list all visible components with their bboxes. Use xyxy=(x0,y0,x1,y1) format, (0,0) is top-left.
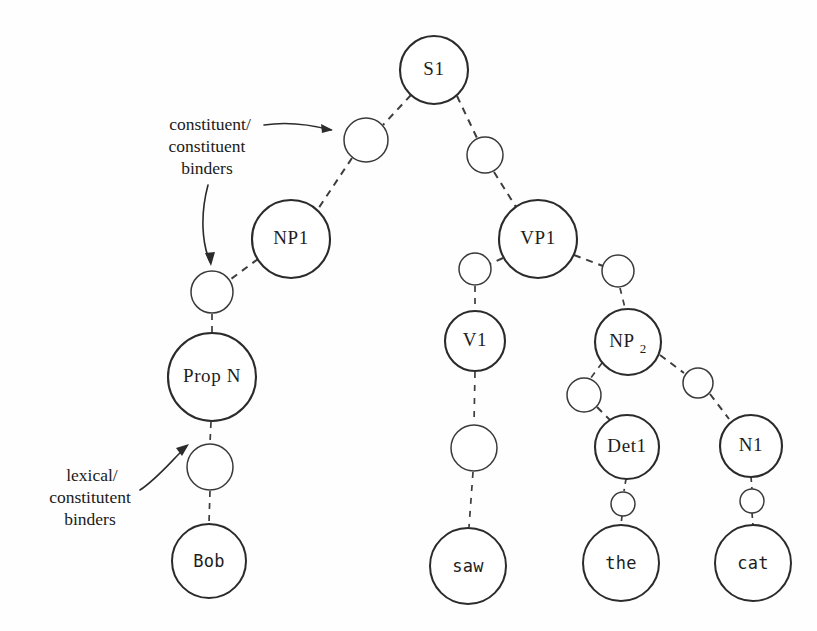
node-binder-propn-bob-circle[interactable] xyxy=(187,444,233,490)
node-propn[interactable]: Prop N xyxy=(168,333,256,421)
node-binder-np2-n1[interactable] xyxy=(683,368,713,398)
edge-s1-to-binder-left xyxy=(383,95,411,125)
edge-np1-to-binder xyxy=(231,259,258,279)
annotation-cc-arrow-lower xyxy=(203,185,210,262)
node-binder-np2-det1-circle[interactable] xyxy=(567,378,601,412)
node-bob[interactable]: Bob xyxy=(172,524,246,598)
node-binder-vp1-np2[interactable] xyxy=(602,255,634,287)
node-cat-label: cat xyxy=(737,553,769,573)
node-np2[interactable]: NP 2 xyxy=(595,309,661,375)
edge-vp1-to-binder-np2 xyxy=(574,255,603,266)
annotation-lexical-constituent: lexical/ constitutent binders xyxy=(49,444,189,529)
annotation-cc-line1: constituent/ xyxy=(169,114,251,134)
node-s1[interactable]: S1 xyxy=(400,36,468,104)
edge-propn-to-binder xyxy=(210,422,211,443)
node-propn-label: Prop N xyxy=(183,365,241,386)
node-binder-vp1-np2-circle[interactable] xyxy=(602,255,634,287)
edge-det1-to-binder-the xyxy=(624,479,626,491)
node-binder-n1-cat[interactable] xyxy=(740,489,764,513)
edge-binder-left-to-np1 xyxy=(316,158,352,212)
annotation-cc-arrowhead-lower xyxy=(205,252,215,266)
node-n1-label: N1 xyxy=(739,434,763,455)
node-binder-np2-n1-circle[interactable] xyxy=(683,368,713,398)
edge-np2-to-binder-n1 xyxy=(660,355,684,373)
edge-n1-to-binder-cat xyxy=(751,477,752,489)
edge-binder-to-n1 xyxy=(710,394,729,419)
node-np2-subscript: 2 xyxy=(640,341,647,356)
node-binder-v1-saw-circle[interactable] xyxy=(451,425,497,471)
node-binder-n1-cat-circle[interactable] xyxy=(740,489,764,513)
edge-binder-to-np2 xyxy=(620,288,625,308)
edge-v1-to-binder-saw xyxy=(474,372,475,424)
annotation-lc-line3: binders xyxy=(64,509,116,529)
node-det1-label: Det1 xyxy=(607,435,646,456)
annotation-lc-line2: constitutent xyxy=(49,487,131,507)
node-binder-s1-np1[interactable] xyxy=(344,118,388,162)
node-n1[interactable]: N1 xyxy=(720,415,782,477)
edge-binder-to-saw xyxy=(469,472,473,527)
tree-canvas: S1 NP1 VP1 Prop N xyxy=(0,0,817,631)
node-vp1-label: VP1 xyxy=(520,227,556,248)
node-s1-label: S1 xyxy=(423,58,444,79)
edge-np2-to-binder-det1 xyxy=(590,363,602,379)
node-v1[interactable]: V1 xyxy=(445,311,505,371)
annotation-cc-line3: binders xyxy=(181,158,233,178)
node-binder-v1-saw[interactable] xyxy=(451,425,497,471)
node-the[interactable]: the xyxy=(583,525,659,601)
node-vp1[interactable]: VP1 xyxy=(499,200,577,278)
node-binder-vp1-v1[interactable] xyxy=(459,253,491,285)
edge-vp1-to-binder-v1 xyxy=(490,258,503,264)
node-binder-vp1-v1-circle[interactable] xyxy=(459,253,491,285)
node-binder-propn-bob[interactable] xyxy=(187,444,233,490)
node-binder-s1-vp1[interactable] xyxy=(467,137,503,173)
node-binder-det1-the-circle[interactable] xyxy=(611,492,635,516)
node-np1-label: NP1 xyxy=(273,227,309,248)
edge-binder-to-cat xyxy=(752,513,753,525)
node-saw[interactable]: saw xyxy=(430,528,506,604)
node-saw-label: saw xyxy=(452,556,484,576)
annotation-lc-line1: lexical/ xyxy=(66,465,118,485)
node-binder-np1-propn[interactable] xyxy=(191,271,233,313)
node-binder-np1-propn-circle[interactable] xyxy=(191,271,233,313)
node-np1[interactable]: NP1 xyxy=(252,200,330,278)
node-layer: S1 NP1 VP1 Prop N xyxy=(168,36,791,604)
node-binder-s1-vp1-circle[interactable] xyxy=(467,137,503,173)
node-cat[interactable]: cat xyxy=(715,525,791,601)
edge-binder-to-the xyxy=(621,516,622,525)
node-np2-label: NP xyxy=(609,330,635,351)
node-binder-np2-det1[interactable] xyxy=(567,378,601,412)
node-bob-label: Bob xyxy=(193,551,225,571)
node-the-label: the xyxy=(605,553,637,573)
node-binder-s1-np1-circle[interactable] xyxy=(344,118,388,162)
edge-s1-to-binder-right xyxy=(457,96,477,138)
annotation-cc-line2: constituent xyxy=(169,136,246,156)
node-det1[interactable]: Det1 xyxy=(595,415,659,479)
annotation-cc-arrow-upper xyxy=(264,123,331,130)
binder-tree-diagram: S1 NP1 VP1 Prop N xyxy=(0,0,817,631)
edge-binder-right-to-vp1 xyxy=(494,172,516,207)
node-v1-label: V1 xyxy=(463,329,487,350)
annotation-lc-arrow xyxy=(140,447,186,490)
annotation-cc-arrowhead-upper xyxy=(321,124,333,133)
edge-binder-to-bob xyxy=(209,491,210,523)
node-binder-det1-the[interactable] xyxy=(611,492,635,516)
